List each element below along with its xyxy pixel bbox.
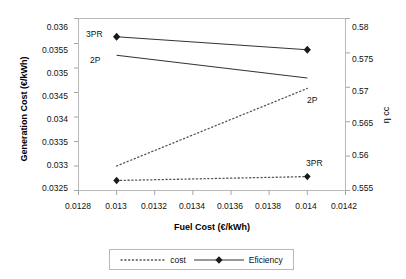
marker-efficiency-3pr-end [304, 46, 311, 54]
x-axis-tick-label: 0.0142 [322, 201, 366, 211]
legend-swatch-efficiency [193, 255, 245, 265]
legend-item-efficiency: Eficiency [193, 255, 283, 265]
y-axis-right-tick-label: 0.555 [352, 183, 398, 193]
legend-item-cost: cost [120, 255, 186, 265]
y-axis-left-tick-label: 0.0345 [22, 91, 68, 101]
x-axis-title: Fuel Cost (€/kWh) [78, 222, 346, 232]
series-annotation-3pr-cost: 3PR [306, 158, 323, 168]
series-line-cost-2p [117, 88, 308, 166]
series-annotation-2p-efficiency: 2P [90, 55, 100, 65]
marker-efficiency-3pr-start [113, 33, 120, 41]
y-axis-right-tick-label: 0.57 [352, 86, 398, 96]
marker-cost-3pr-end [304, 173, 311, 180]
y-axis-right-tick-label: 0.565 [352, 118, 398, 128]
legend-label-efficiency: Eficiency [249, 255, 283, 265]
y-axis-right-tick-label: 0.58 [352, 22, 398, 32]
y-axis-left-tick-label: 0.034 [22, 114, 68, 124]
y-axis-left-tick-label: 0.033 [22, 160, 68, 170]
series-annotation-3pr-efficiency: 3PR [86, 29, 103, 39]
series-line-cost-3pr [117, 177, 308, 181]
y-axis-left-tick-label: 0.035 [22, 68, 68, 78]
legend-label-cost: cost [170, 255, 186, 265]
legend: cost Eficiency [109, 249, 294, 270]
legend-swatch-cost [120, 255, 166, 265]
y-axis-left-tick-label: 0.0355 [22, 45, 68, 55]
y-axis-right-ticks [346, 19, 351, 191]
marker-cost-3pr-start [113, 177, 120, 184]
series-line-efficiency-2p [117, 55, 308, 78]
chart-figure: Generation Cost (€/kWh) η cc Fuel Cost (… [0, 0, 406, 279]
y-axis-left-ticks [74, 19, 79, 191]
x-axis-ticks [79, 191, 346, 196]
y-axis-left-tick-label: 0.0335 [22, 137, 68, 147]
series-line-efficiency-3pr [117, 37, 308, 50]
y-axis-left-tick-label: 0.036 [22, 22, 68, 32]
y-axis-left-tick-label: 0.0325 [22, 183, 68, 193]
y-axis-right-tick-label: 0.575 [352, 54, 398, 64]
y-axis-right-tick-label: 0.56 [352, 150, 398, 160]
series-annotation-2p-cost: 2P [307, 95, 317, 105]
